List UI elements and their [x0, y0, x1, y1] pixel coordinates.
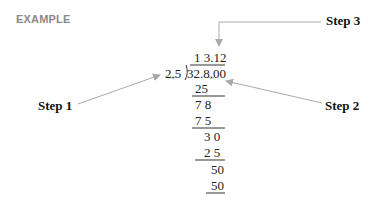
- work-line-3: 7 5: [195, 114, 211, 127]
- step-1-arrow: [78, 75, 160, 104]
- work-line-7: 50: [211, 179, 224, 192]
- step-3-label: Step 3: [326, 13, 360, 29]
- work-line-6: 50: [211, 163, 224, 176]
- step-2-arrow: [226, 81, 322, 103]
- step-2-label: Step 2: [325, 98, 359, 114]
- quotient: 1 3.12: [194, 51, 227, 64]
- dividend: 32.8.00: [187, 67, 226, 80]
- step-1-label: Step 1: [38, 98, 72, 114]
- work-line-5: 2 5: [204, 146, 220, 159]
- step-3-arrow: [219, 22, 321, 46]
- work-line-2: 7 8: [195, 98, 211, 111]
- work-line-1: 25: [195, 82, 208, 95]
- divisor: 2.5: [165, 67, 181, 80]
- work-line-4: 3 0: [204, 130, 220, 143]
